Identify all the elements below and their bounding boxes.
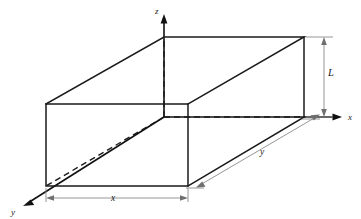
dimension-x-arrow-left [46, 195, 54, 201]
dimension-x-arrow-right [180, 195, 188, 201]
z-axis-label: z [154, 6, 159, 16]
y-axis-line [31, 117, 164, 201]
dimension-L-arrow-top [321, 37, 327, 45]
y-axis-label: y [10, 207, 15, 217]
dimension-y-line [200, 117, 316, 185]
dimension-y-label: y [259, 147, 265, 157]
dimension-L-label: L [327, 67, 334, 78]
x-axis-arrowhead [333, 114, 343, 121]
dimension-L-arrow-bottom [321, 109, 327, 117]
figure-container: L x y z x y [0, 0, 361, 219]
box-diagram-svg: L x y z x y [0, 0, 361, 219]
dimension-L-group: L [306, 37, 334, 117]
dimension-y-group: y [186, 115, 320, 189]
right-face-bottom-edge [188, 117, 304, 186]
hidden-edge-bottom-back-left [46, 117, 164, 186]
x-axis-label: x [347, 112, 352, 122]
top-face-outline [46, 37, 304, 104]
z-axis-arrowhead [161, 14, 168, 24]
dimension-x-group: x [46, 188, 188, 203]
dimension-x-label: x [110, 193, 116, 203]
y-axis [23, 117, 164, 206]
